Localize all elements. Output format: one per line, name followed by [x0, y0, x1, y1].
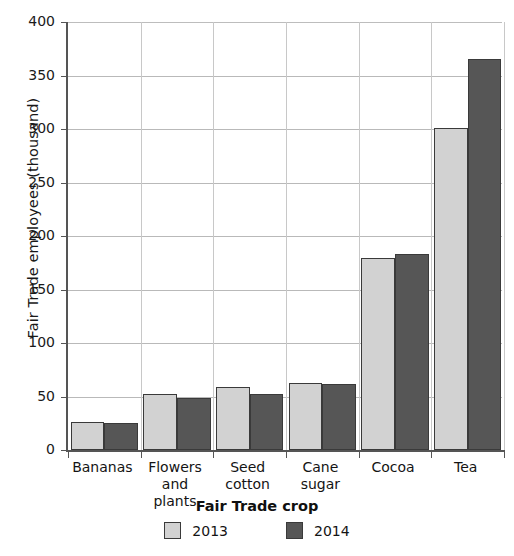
category-label: Cocoa: [357, 459, 430, 476]
x-axis-tick: [68, 450, 69, 458]
x-axis-tick: [286, 450, 287, 458]
y-axis-tick: [61, 236, 68, 237]
legend-swatch-icon: [164, 522, 181, 539]
bar-cane-sugar-2014: [322, 384, 356, 450]
y-axis-tick: [61, 397, 68, 398]
category-label: Canesugar: [284, 459, 357, 493]
gridline: [359, 22, 360, 450]
y-axis-tick-label: 300: [15, 120, 55, 136]
bar-flowers-and-plants-2013: [143, 394, 177, 450]
legend-label: 2014: [314, 523, 350, 539]
bar-seed-cotton-2013: [216, 387, 250, 450]
x-axis-tick: [431, 450, 432, 458]
category-label: Tea: [429, 459, 502, 476]
legend-item-2014[interactable]: 2014: [286, 522, 350, 539]
category-label-line: Seed: [211, 459, 284, 476]
category-label-line: Tea: [429, 459, 502, 476]
legend-item-2013[interactable]: 2013: [164, 522, 228, 539]
plot-area: [66, 22, 502, 450]
y-axis-tick-label: 150: [15, 281, 55, 297]
category-label-line: Bananas: [66, 459, 139, 476]
gridline: [504, 22, 505, 450]
plot-top-border: [68, 22, 502, 23]
x-axis-title: Fair Trade crop: [0, 498, 514, 514]
legend-swatch-icon: [286, 522, 303, 539]
y-axis-tick: [61, 450, 68, 451]
x-axis-tick: [359, 450, 360, 458]
category-label-line: Cocoa: [357, 459, 430, 476]
y-axis-tick-label: 100: [15, 334, 55, 350]
category-label-line: Flowers: [139, 459, 212, 476]
category-label: Seedcotton: [211, 459, 284, 493]
y-axis-tick: [61, 290, 68, 291]
y-axis-tick-label: 400: [15, 13, 55, 29]
gridline: [68, 76, 502, 77]
x-axis-tick: [504, 450, 505, 458]
bar-cane-sugar-2013: [289, 383, 323, 450]
legend-label: 2013: [192, 523, 228, 539]
y-axis-tick: [61, 22, 68, 23]
y-axis-tick: [61, 129, 68, 130]
y-axis-tick-label: 250: [15, 174, 55, 190]
bar-cocoa-2013: [361, 258, 395, 450]
x-axis-tick: [213, 450, 214, 458]
bar-tea-2013: [434, 128, 468, 450]
bar-bananas-2013: [71, 422, 105, 450]
gridline: [213, 22, 214, 450]
gridline: [286, 22, 287, 450]
y-axis-tick-label: 0: [15, 441, 55, 457]
bar-flowers-and-plants-2014: [177, 398, 211, 450]
y-axis-tick-label: 50: [15, 388, 55, 404]
category-label: Bananas: [66, 459, 139, 476]
bar-seed-cotton-2014: [250, 394, 284, 450]
x-axis-tick: [141, 450, 142, 458]
category-label-line: Cane: [284, 459, 357, 476]
bar-chart: Fair Trade employees (thousand) 05010015…: [0, 0, 514, 556]
y-axis-tick-label: 200: [15, 227, 55, 243]
legend: 20132014: [0, 522, 514, 539]
y-axis-tick: [61, 76, 68, 77]
category-label-line: sugar: [284, 476, 357, 493]
bar-tea-2014: [468, 59, 502, 450]
y-axis-tick: [61, 343, 68, 344]
x-axis-line: [66, 450, 504, 452]
gridline: [141, 22, 142, 450]
category-label-line: cotton: [211, 476, 284, 493]
y-axis-tick-label: 350: [15, 67, 55, 83]
bar-bananas-2014: [104, 423, 138, 450]
bar-cocoa-2014: [395, 254, 429, 450]
y-axis-tick: [61, 183, 68, 184]
gridline: [431, 22, 432, 450]
